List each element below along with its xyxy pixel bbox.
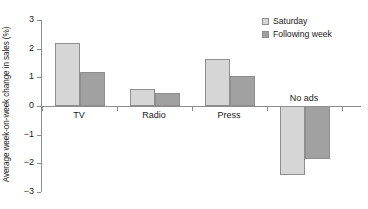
bar-chart: Average week-on-week change in sales (%)… [0, 0, 368, 209]
bar-no-ads-following-week [305, 106, 330, 159]
bar-tv-following-week [80, 72, 105, 106]
y-tick-label-0: 0 [29, 100, 34, 111]
y-tick-0: 0 [37, 106, 41, 107]
y-tick-label-minus-3: −3 [24, 186, 34, 197]
x-tick-3 [267, 107, 268, 111]
x-label-tv: TV [73, 110, 85, 121]
legend-item-following-week: Following week [262, 28, 332, 40]
legend-item-saturday: Saturday [262, 15, 332, 27]
bar-radio-following-week [155, 93, 180, 106]
y-tick-label-1: 1 [29, 71, 34, 82]
x-tick-2 [192, 107, 193, 111]
x-tick-0 [42, 107, 43, 111]
x-label-no-ads: No ads [290, 93, 319, 104]
y-tick-minus-1: −1 [37, 135, 41, 136]
legend-swatch-following-week-icon [262, 31, 269, 38]
x-label-radio: Radio [142, 110, 166, 121]
y-axis-title: Average week-on-week change in sales (%) [0, 0, 14, 209]
y-tick-3: 3 [37, 20, 41, 21]
plot-area: 3 2 1 0 −1 −2 −3 TV Radio Press No [41, 20, 361, 192]
y-tick-label-2: 2 [29, 43, 34, 54]
legend-label-saturday: Saturday [273, 16, 307, 26]
bar-press-saturday [205, 59, 230, 106]
y-tick-label-minus-2: −2 [24, 157, 34, 168]
y-tick-2: 2 [37, 49, 41, 50]
y-tick-1: 1 [37, 77, 41, 78]
legend: Saturday Following week [262, 15, 332, 41]
bar-no-ads-saturday [280, 106, 305, 175]
legend-swatch-saturday-icon [262, 18, 269, 25]
bar-press-following-week [230, 76, 255, 106]
y-tick-minus-3: −3 [37, 192, 41, 193]
legend-label-following-week: Following week [273, 29, 332, 39]
x-label-press: Press [217, 110, 240, 121]
bar-radio-saturday [130, 89, 155, 106]
y-tick-label-minus-1: −1 [24, 129, 34, 140]
x-tick-4 [342, 107, 343, 111]
bar-tv-saturday [55, 43, 80, 106]
y-tick-label-3: 3 [29, 14, 34, 25]
x-tick-1 [117, 107, 118, 111]
y-tick-minus-2: −2 [37, 163, 41, 164]
